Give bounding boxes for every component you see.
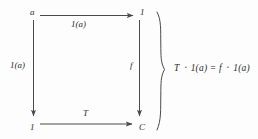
node-bottom-right: C <box>139 123 145 132</box>
equation-text: T ᛫ 1(a) = f ᛫ 1(a) <box>174 64 250 74</box>
edge-label-left: 1(a) <box>10 61 25 70</box>
edge-label-right: f <box>130 61 133 70</box>
right-brace-icon <box>157 12 165 130</box>
node-bottom-left: 1 <box>30 123 35 132</box>
edge-label-top: 1(a) <box>71 20 86 29</box>
edge-label-bottom: T <box>83 109 88 118</box>
diagram-canvas: a 1 1 C 1(a) 1(a) f T T ᛫ 1(a) = f ᛫ 1(a… <box>0 0 258 139</box>
node-top-right: 1 <box>140 8 145 17</box>
node-top-left: a <box>30 8 35 17</box>
